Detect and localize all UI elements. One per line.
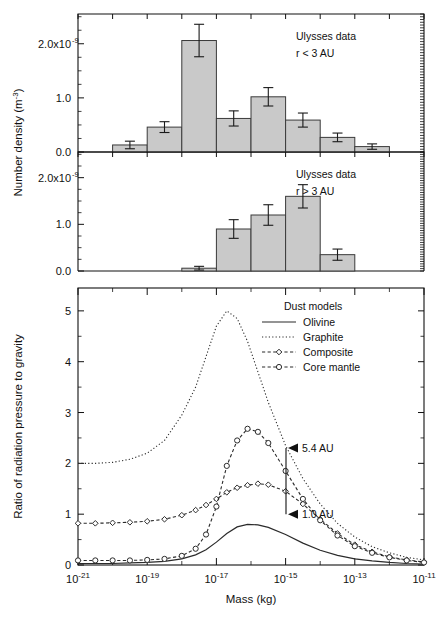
chart-panel-top: 0.01.02.0x10-9Ulysses datar < 3 AU [38,14,424,158]
series-marker-core-mantle [110,558,115,563]
series-marker-composite [93,521,99,527]
annotation-arrow-icon [288,444,298,453]
annotation-arrow-icon [288,510,298,519]
chart-panel-middle: 0.01.02.0x10-9Ulysses datar > 3 AU [38,152,424,277]
panel-annotation: r > 3 AU [296,185,334,197]
y-tick-label: 0 [65,559,71,571]
series-marker-core-mantle [193,546,198,551]
series-marker-composite [266,482,272,488]
y-tick-label: 3 [65,407,71,419]
y-tick-label: 1.0 [56,92,71,104]
series-marker-composite [193,507,199,513]
series-marker-core-mantle [255,429,260,434]
series-marker-core-mantle [266,440,271,445]
series-marker-core-mantle [179,553,184,558]
series-marker-core-mantle [421,560,426,565]
series-marker-core-mantle [93,558,98,563]
series-marker-core-mantle [370,550,375,555]
series-marker-core-mantle [214,504,219,509]
annotation-label: 1.0 AU [302,508,334,520]
figure-container: 0.01.02.0x10-9Ulysses datar < 3 AU0.01.0… [0,0,440,620]
legend-label: Core mantle [303,361,360,373]
panel-annotation: r < 3 AU [296,47,334,59]
y-tick-label: 5 [65,305,71,317]
y-tick-label: 0.0 [56,265,71,277]
legend-label: Graphite [303,331,343,343]
series-marker-core-mantle [235,438,240,443]
series-marker-core-mantle [203,532,208,537]
legend-label: Composite [303,346,353,358]
series-marker-core-mantle [75,558,80,563]
series-marker-composite [224,490,230,496]
series-marker-core-mantle [224,463,229,468]
series-marker-composite [255,481,261,487]
figure-svg: 0.01.02.0x10-9Ulysses datar < 3 AU0.01.0… [0,0,440,620]
y-axis-title-text: Number density (m-3) [11,88,24,196]
y-tick-label: 0.0 [56,146,71,158]
series-marker-core-mantle [300,496,305,501]
series-marker-composite [110,520,116,526]
y-axis-title: Ratio of radiation pressure to gravity [12,334,24,519]
series-marker-composite [127,520,133,526]
annotation-label: 5.4 AU [302,442,334,454]
series-marker-core-mantle [387,555,392,560]
x-tick-label: 10-13 [343,571,367,585]
series-marker-composite [234,485,240,491]
series-marker-core-mantle [352,544,357,549]
series-marker-composite [245,482,251,488]
series-marker-core-mantle [127,558,132,563]
y-tick-label: 1 [65,508,71,520]
legend-label: Olivine [303,316,335,328]
legend-title: Dust models [284,300,342,312]
series-marker-composite [203,502,209,508]
panel-annotation: Ulysses data [296,168,356,180]
series-marker-composite [144,518,150,524]
legend: Dust modelsOlivineGraphiteCompositeCore … [262,300,360,373]
series-marker-core-mantle [404,558,409,563]
series-marker-core-mantle [145,557,150,562]
series-marker-core-mantle [335,533,340,538]
x-tick-label: 10-19 [135,571,159,585]
x-tick-label: 10-15 [274,571,298,585]
y-tick-label: 2.0x10 [38,172,71,184]
y-tick-label-exponent: -9 [72,170,79,179]
series-marker-composite [179,512,185,518]
figure-caption [8,604,432,618]
y-tick-label: 2.0x10 [38,38,71,50]
chart-panel-bottom: 01234510-2110-1910-1710-1510-1310-11Mass… [12,288,436,605]
y-tick-label: 4 [65,356,71,368]
series-marker-core-mantle [245,426,250,431]
y-tick-label: 1.0 [56,218,71,230]
x-tick-label: 10-11 [412,571,436,585]
panel-annotation: Ulysses data [296,30,356,42]
y-tick-label-exponent: -9 [72,36,79,45]
y-tick-label: 2 [65,457,71,469]
x-tick-label: 10-17 [204,571,228,585]
x-tick-label: 10-21 [66,571,90,585]
series-marker-core-mantle [162,556,167,561]
legend-marker-diamond [276,349,282,355]
legend-marker-circle [276,364,281,369]
series-marker-composite [162,516,168,522]
series-marker-composite [75,521,81,527]
y-axis-title-density: Number density (m-3) [11,88,24,196]
series-line-core-mantle [78,429,424,563]
